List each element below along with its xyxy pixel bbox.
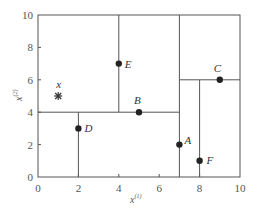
y-tick-label: 4 bbox=[28, 106, 34, 118]
x-axis-label: x(1) bbox=[129, 193, 141, 205]
x-tick-label: 10 bbox=[235, 182, 247, 194]
y-tick-label: 2 bbox=[28, 139, 34, 151]
point-label-f: F bbox=[206, 154, 214, 166]
x-tick-label: 8 bbox=[197, 182, 203, 194]
x-tick-label: 0 bbox=[35, 182, 41, 194]
x-tick-label: 2 bbox=[76, 182, 82, 194]
y-tick-label: 10 bbox=[22, 9, 34, 21]
point-a bbox=[176, 141, 182, 147]
point-label-c: C bbox=[214, 62, 222, 74]
query-point-label: x bbox=[55, 78, 61, 90]
point-f bbox=[196, 158, 202, 164]
point-label-e: E bbox=[124, 58, 132, 70]
point-label-d: D bbox=[83, 122, 92, 134]
point-e bbox=[116, 60, 122, 66]
y-tick-label: 8 bbox=[28, 41, 34, 53]
point-label-b: B bbox=[134, 94, 141, 106]
kd-tree-partition-chart: 02468100246810 ABCDEFx x(1) x(2) bbox=[0, 0, 259, 217]
y-tick-label: 6 bbox=[28, 74, 34, 86]
point-label-a: A bbox=[183, 134, 191, 146]
point-b bbox=[136, 109, 142, 115]
x-tick-label: 6 bbox=[156, 182, 162, 194]
y-axis-label: x(2) bbox=[12, 90, 24, 102]
point-c bbox=[217, 77, 223, 83]
point-d bbox=[75, 125, 81, 131]
x-tick-label: 4 bbox=[116, 182, 122, 194]
query-point-asterisk-icon bbox=[54, 92, 62, 100]
y-tick-label: 0 bbox=[28, 171, 34, 183]
